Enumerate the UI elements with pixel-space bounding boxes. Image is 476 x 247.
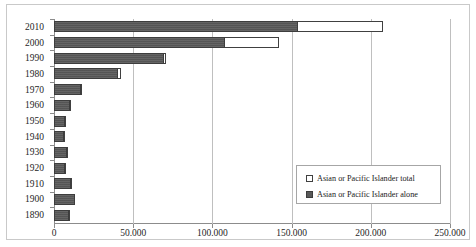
- y-axis-label: 1990: [7, 53, 49, 63]
- chart-frame: 050.000100.000150.000200.000250.000 2010…: [6, 4, 470, 240]
- bar-row[interactable]: [54, 210, 450, 221]
- bar-row[interactable]: [54, 147, 450, 158]
- y-axis-tick: [50, 129, 54, 130]
- x-axis-label: 150.000: [276, 228, 307, 239]
- gridline: [450, 19, 451, 224]
- bar-alone[interactable]: [54, 100, 70, 111]
- bar-row[interactable]: [54, 68, 450, 79]
- bar-row[interactable]: [54, 84, 450, 95]
- bar-alone[interactable]: [54, 210, 69, 221]
- bar-row[interactable]: [54, 21, 450, 32]
- legend-label-total: Asian or Pacific Islander total: [317, 174, 415, 183]
- y-axis-tick: [50, 97, 54, 98]
- bar-row[interactable]: [54, 131, 450, 142]
- chart-legend: Asian or Pacific Islander total Asian or…: [296, 165, 441, 204]
- x-axis-label: 200.000: [355, 228, 386, 239]
- bar-alone[interactable]: [54, 53, 164, 64]
- x-axis-label: 0: [52, 228, 57, 239]
- y-axis-label: 1890: [7, 210, 49, 220]
- y-axis-label: 1900: [7, 194, 49, 204]
- y-axis-tick: [50, 145, 54, 146]
- y-axis-tick: [50, 66, 54, 67]
- y-axis-label: 1920: [7, 163, 49, 173]
- bar-alone[interactable]: [54, 68, 118, 79]
- bar-row[interactable]: [54, 116, 450, 127]
- bar-row[interactable]: [54, 37, 450, 48]
- bar-row[interactable]: [54, 53, 450, 64]
- y-axis-label: 1950: [7, 116, 49, 126]
- y-axis-tick: [50, 176, 54, 177]
- bar-alone[interactable]: [54, 84, 81, 95]
- filled-square-icon: [306, 191, 313, 198]
- y-axis-tick: [50, 19, 54, 20]
- x-axis-label: 50.000: [120, 228, 146, 239]
- bar-alone[interactable]: [54, 116, 65, 127]
- bar-alone[interactable]: [54, 131, 64, 142]
- bar-alone[interactable]: [54, 194, 75, 205]
- y-axis-tick: [50, 192, 54, 193]
- x-axis-label: 250.000: [435, 228, 466, 239]
- bar-alone[interactable]: [54, 178, 71, 189]
- y-axis-tick: [50, 113, 54, 114]
- y-axis-tick: [50, 160, 54, 161]
- x-axis-label: 100.000: [197, 228, 228, 239]
- hollow-square-icon: [306, 175, 313, 182]
- y-axis-tick: [50, 82, 54, 83]
- legend-item-alone[interactable]: Asian or Pacific Islander alone: [306, 188, 418, 200]
- y-axis-label: 2000: [7, 38, 49, 48]
- bar-alone[interactable]: [54, 37, 225, 48]
- y-axis-label: 2010: [7, 22, 49, 32]
- y-axis-label: 1910: [7, 179, 49, 189]
- legend-label-alone: Asian or Pacific Islander alone: [317, 190, 418, 199]
- y-axis-label: 1980: [7, 69, 49, 79]
- bar-row[interactable]: [54, 100, 450, 111]
- y-axis-label: 1970: [7, 85, 49, 95]
- y-axis-label: 1930: [7, 147, 49, 157]
- x-axis-line: [54, 223, 450, 224]
- bar-alone[interactable]: [54, 147, 67, 158]
- y-axis-label: 1960: [7, 100, 49, 110]
- y-axis-tick: [50, 35, 54, 36]
- bar-alone[interactable]: [54, 21, 298, 32]
- y-axis-tick: [50, 207, 54, 208]
- y-axis-label: 1940: [7, 132, 49, 142]
- bar-alone[interactable]: [54, 163, 65, 174]
- legend-item-total[interactable]: Asian or Pacific Islander total: [306, 172, 415, 184]
- y-axis-tick: [50, 50, 54, 51]
